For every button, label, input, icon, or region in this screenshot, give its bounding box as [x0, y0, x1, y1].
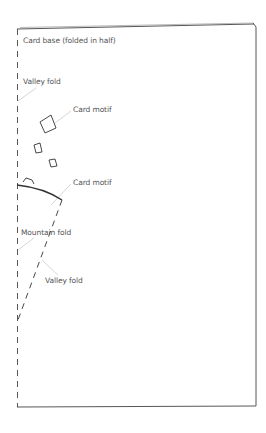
label-valley-fold-top: Valley fold	[23, 77, 61, 86]
valley-fold-diagonal	[18, 200, 62, 320]
leader-card-motif-top	[55, 111, 71, 123]
motif-small-square-1	[34, 143, 42, 153]
label-card-base: Card base (folded in half)	[23, 36, 116, 45]
label-mountain-fold: Mountain fold	[21, 228, 71, 237]
card-motifs	[17, 115, 62, 200]
leader-lines	[18, 88, 71, 275]
motif-large-square	[40, 115, 56, 133]
label-card-motif-bottom: Card motif	[73, 178, 112, 187]
leader-valley-fold-bottom	[42, 260, 58, 275]
label-valley-fold-bottom: Valley fold	[45, 276, 83, 285]
card-top-corner	[253, 23, 256, 27]
card-top-edge	[17, 24, 254, 29]
card-bottom-edge	[17, 406, 256, 407]
motif-arc	[17, 185, 62, 200]
label-card-motif-top: Card motif	[73, 105, 112, 114]
leader-mountain-fold	[18, 238, 34, 250]
leader-valley-fold-top	[18, 88, 36, 101]
motif-small-shape	[23, 178, 34, 184]
motif-small-square-2	[49, 159, 57, 167]
card-fold-diagram	[0, 0, 266, 433]
